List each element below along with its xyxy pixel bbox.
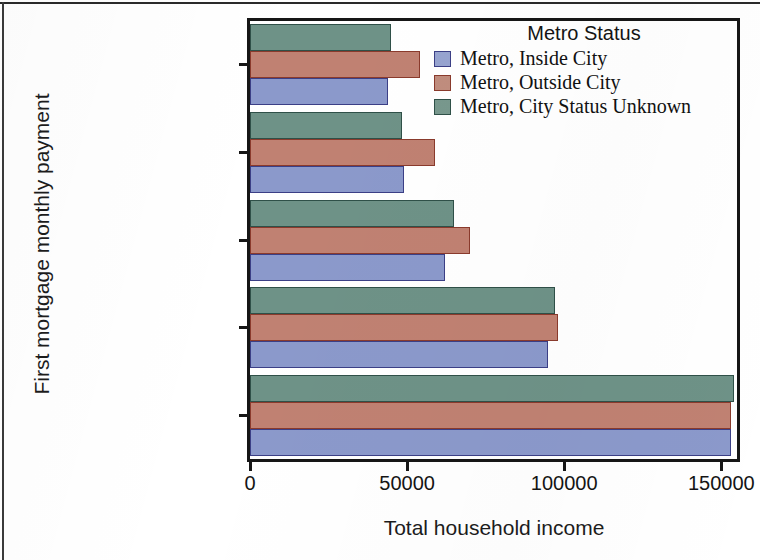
bar: [250, 112, 402, 139]
legend: Metro Status Metro, Inside CityMetro, Ou…: [434, 22, 734, 119]
bar: [250, 51, 420, 78]
y-axis-tick: [239, 151, 250, 154]
bar-group: [250, 375, 737, 456]
legend-item[interactable]: Metro, City Status Unknown: [434, 95, 734, 118]
bar-group: [250, 287, 737, 368]
legend-item[interactable]: Metro, Inside City: [434, 47, 734, 70]
x-axis-tick-label: 50000: [379, 472, 435, 495]
legend-title: Metro Status: [434, 22, 734, 45]
legend-item[interactable]: Metro, Outside City: [434, 71, 734, 94]
y-axis-tick: [239, 63, 250, 66]
legend-rows: Metro, Inside CityMetro, Outside CityMet…: [434, 47, 734, 118]
bar: [250, 200, 454, 227]
bar: [250, 429, 731, 456]
legend-swatch-icon: [434, 75, 451, 91]
bar: [250, 166, 404, 193]
x-axis-tick: [563, 459, 566, 471]
bar-chart-figure: First mortgage monthly payment Total hou…: [0, 0, 760, 560]
bar: [250, 24, 391, 51]
bar: [250, 78, 388, 105]
legend-swatch-icon: [434, 51, 451, 67]
y-axis-tick: [239, 326, 250, 329]
legend-swatch-icon: [434, 99, 451, 115]
x-axis-tick-label: 150000: [688, 472, 755, 495]
x-axis-tick: [406, 459, 409, 471]
legend-item-label: Metro, City Status Unknown: [460, 95, 691, 118]
y-axis-tick: [239, 414, 250, 417]
x-axis-tick-label: 0: [244, 472, 255, 495]
bar-group: [250, 200, 737, 281]
bar: [250, 314, 558, 341]
y-axis-title: First mortgage monthly payment: [30, 44, 54, 444]
bar: [250, 139, 435, 166]
x-axis-tick: [720, 459, 723, 471]
y-axis-tick: [239, 239, 250, 242]
bar: [250, 287, 555, 314]
legend-item-label: Metro, Outside City: [460, 71, 621, 94]
x-axis-tick: [249, 459, 252, 471]
x-axis-tick-label: 100000: [531, 472, 598, 495]
bar: [250, 341, 548, 368]
bar-group: [250, 112, 737, 193]
x-axis-title: Total household income: [248, 516, 740, 540]
bar: [250, 227, 470, 254]
legend-item-label: Metro, Inside City: [460, 47, 607, 70]
bar: [250, 375, 734, 402]
bar: [250, 402, 731, 429]
bar: [250, 254, 445, 281]
